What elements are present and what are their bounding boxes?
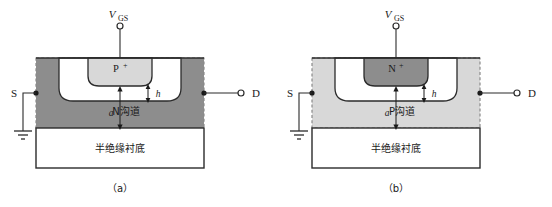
gate-region-b	[364, 58, 428, 86]
channel-label-b: P沟道	[389, 105, 415, 117]
panel-caption-b: （b）	[383, 183, 409, 194]
drain-label-b: D	[528, 87, 536, 99]
dim-h-label-b: h	[432, 89, 437, 99]
panel-b-svg: V GS S D N + P沟道 半绝缘衬底 a h （b）	[276, 0, 552, 207]
panel-caption-a: （a）	[107, 183, 133, 194]
gate-voltage-subscript-b: GS	[394, 14, 404, 23]
figure-panel-a: V GS S D P + N沟道 半绝缘衬底 a h （a）	[0, 0, 276, 207]
gate-region-superscript-b: +	[399, 61, 404, 70]
channel-label-a: N沟道	[112, 105, 139, 117]
figure-panel-b: V GS S D N + P沟道 半绝缘衬底 a h （b）	[276, 0, 552, 207]
source-label-b: S	[287, 87, 293, 99]
drain-terminal-a[interactable]	[238, 90, 244, 96]
substrate-label-a: 半绝缘衬底	[95, 142, 145, 154]
source-wire-b	[299, 93, 312, 131]
gate-voltage-subscript-a: GS	[118, 14, 128, 23]
gate-region-label-b: N	[388, 63, 396, 74]
source-label-a: S	[11, 87, 17, 99]
gate-region-label-a: P	[113, 63, 119, 74]
gate-region-superscript-a: +	[123, 61, 128, 70]
source-wire-a	[23, 93, 36, 131]
gate-voltage-label-b: V	[385, 8, 393, 20]
gate-voltage-label-a: V	[109, 8, 117, 20]
gate-terminal-b[interactable]	[393, 23, 399, 29]
drain-label-a: D	[252, 87, 260, 99]
dim-a-label-a: a	[109, 108, 114, 118]
drain-terminal-b[interactable]	[514, 90, 520, 96]
dim-h-label-a: h	[156, 89, 161, 99]
panel-a-svg: V GS S D P + N沟道 半绝缘衬底 a h （a）	[0, 0, 276, 207]
gate-terminal-a[interactable]	[117, 23, 123, 29]
dim-a-label-b: a	[385, 108, 390, 118]
substrate-label-b: 半绝缘衬底	[371, 142, 421, 154]
gate-region-a	[88, 58, 152, 86]
